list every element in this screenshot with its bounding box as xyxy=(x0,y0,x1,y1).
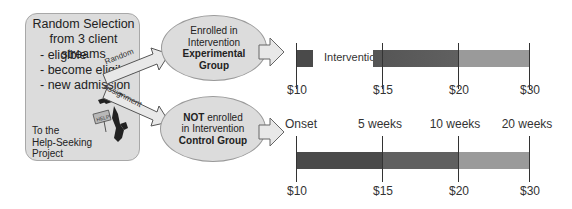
tick-30-bottom xyxy=(529,136,530,182)
control-line2: in Intervention xyxy=(161,123,265,135)
payment-15-top: $15 xyxy=(373,83,393,97)
control-next-arrow-icon xyxy=(258,117,286,147)
experimental-line1: Enrolled in xyxy=(162,25,266,37)
payment-20-top: $20 xyxy=(449,83,469,97)
footer-line3: Project xyxy=(32,148,92,160)
selection-title-line1: Random Selection xyxy=(26,17,141,32)
control-line3: Control Group xyxy=(161,135,265,147)
experimental-line2: Intervention xyxy=(162,37,266,49)
experimental-next-arrow-icon xyxy=(258,37,286,67)
experimental-bar-intervention xyxy=(373,50,458,67)
week-onset: Onset xyxy=(285,117,317,131)
week-5: 5 weeks xyxy=(358,117,402,131)
experimental-bar-followup xyxy=(458,50,530,67)
control-not-text: NOT xyxy=(183,112,204,123)
control-line1: NOT enrolled xyxy=(161,112,265,124)
payment-30-top: $30 xyxy=(520,83,540,97)
experimental-bar-onset xyxy=(296,50,313,67)
payment-10-top: $10 xyxy=(287,83,307,97)
control-enrolled-text: enrolled xyxy=(204,112,242,123)
week-10: 10 weeks xyxy=(430,117,481,131)
week-20: 20 weeks xyxy=(502,117,553,131)
control-bar-segment2 xyxy=(382,152,458,169)
control-group-oval: NOT enrolled in Intervention Control Gro… xyxy=(160,96,266,162)
tick-15-bottom xyxy=(382,136,383,182)
experimental-group-oval: Enrolled in Intervention Experimental Gr… xyxy=(161,15,267,81)
control-bar-segment1 xyxy=(296,152,382,169)
payment-30-bottom: $30 xyxy=(520,184,540,198)
control-bar-segment3 xyxy=(458,152,530,169)
payment-10-bottom: $10 xyxy=(287,184,307,198)
tick-20-bottom xyxy=(458,136,459,182)
payment-20-bottom: $20 xyxy=(449,184,469,198)
payment-15-bottom: $15 xyxy=(373,184,393,198)
experimental-line3: Experimental xyxy=(162,48,266,60)
tick-10-bottom xyxy=(296,136,297,182)
experimental-line4: Group xyxy=(162,60,266,72)
